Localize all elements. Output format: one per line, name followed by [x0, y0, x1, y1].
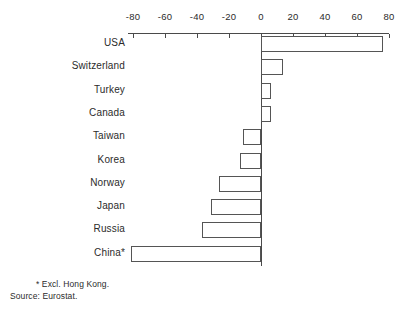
footnote-source: Source: Eurostat. [10, 291, 77, 301]
category-label: Japan [97, 200, 125, 211]
bar [261, 59, 283, 75]
x-tick-label: 60 [342, 11, 372, 22]
chart-row: Korea [0, 150, 415, 173]
x-tick-label: -40 [182, 11, 212, 22]
chart-row: Russia [0, 219, 415, 242]
chart-row: Turkey [0, 80, 415, 103]
bar [261, 36, 383, 52]
chart-row: China* [0, 243, 415, 266]
bar [131, 246, 261, 262]
bar [219, 176, 261, 192]
category-label: Taiwan [93, 130, 125, 141]
bar-chart: -80-60-40-20020406080 USASwitzerlandTurk… [0, 0, 415, 310]
plot-area: USASwitzerlandTurkeyCanadaTaiwanKoreaNor… [0, 33, 415, 268]
bar [243, 129, 261, 145]
category-label: Canada [89, 107, 125, 118]
category-label: Turkey [94, 84, 125, 95]
chart-row: Japan [0, 196, 415, 219]
category-label: USA [104, 37, 125, 48]
chart-row: USA [0, 33, 415, 56]
chart-row: Switzerland [0, 56, 415, 79]
x-tick-label: -80 [118, 11, 148, 22]
x-tick-label: 20 [278, 11, 308, 22]
category-label: Russia [94, 223, 125, 234]
chart-row: Taiwan [0, 126, 415, 149]
category-label: Switzerland [72, 60, 125, 71]
x-tick-label: 80 [374, 11, 404, 22]
category-label: Norway [90, 177, 125, 188]
x-tick-label: -60 [150, 11, 180, 22]
bar [261, 83, 271, 99]
chart-row: Canada [0, 103, 415, 126]
category-label: Korea [98, 154, 125, 165]
category-label: China* [94, 247, 125, 258]
footnote-exclusion: * Excl. Hong Kong. [36, 279, 109, 289]
x-tick-label: 40 [310, 11, 340, 22]
chart-row: Norway [0, 173, 415, 196]
bar [261, 106, 271, 122]
bar [202, 222, 261, 238]
x-tick-label: 0 [246, 11, 276, 22]
bar [211, 199, 261, 215]
bar [240, 153, 261, 169]
x-tick-label: -20 [214, 11, 244, 22]
